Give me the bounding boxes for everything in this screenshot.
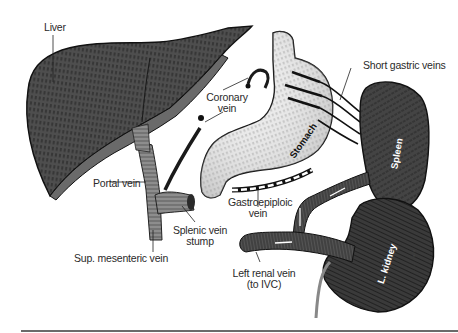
label-splenic-vein-stump-line2: stump [170, 236, 230, 247]
label-short-gastric-veins: Short gastric veins [363, 60, 446, 71]
label-left-renal-vein-line2: (to IVC) [228, 279, 300, 290]
left-renal-vein [240, 232, 355, 262]
bottom-rule [21, 330, 458, 332]
label-coronary-vein: Coronary vein [202, 92, 252, 114]
label-gastroepiploic-vein-line2: vein [228, 208, 288, 219]
label-splenic-vein-stump: Splenic vein stump [170, 225, 230, 247]
label-coronary-vein-line2: vein [202, 103, 252, 114]
splenic-vein-stump [155, 192, 195, 214]
label-left-renal-vein: Left renal vein (to IVC) [228, 268, 300, 290]
label-portal-vein: Portal vein [93, 178, 140, 189]
label-gastroepiploic-vein: Gastroepiploic vein [228, 197, 288, 219]
label-liver: Liver [44, 22, 66, 33]
artist-signature: B·B· ····· [412, 250, 416, 274]
label-sup-mesenteric-vein: Sup. mesenteric vein [74, 253, 168, 264]
